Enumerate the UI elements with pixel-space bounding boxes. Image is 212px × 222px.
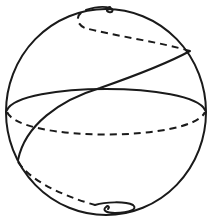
south-pole-coil [95, 202, 134, 213]
equator-back [7, 112, 205, 135]
equator-front [7, 89, 205, 110]
loxodrome-front [18, 51, 190, 160]
loxodrome-back-upper [78, 12, 190, 51]
sphere-diagram: Loxodrome spiraling on a sphere [0, 0, 212, 222]
sphere-svg [0, 0, 212, 222]
loxodrome-back-lower [18, 162, 95, 205]
sphere-outline [6, 9, 206, 215]
